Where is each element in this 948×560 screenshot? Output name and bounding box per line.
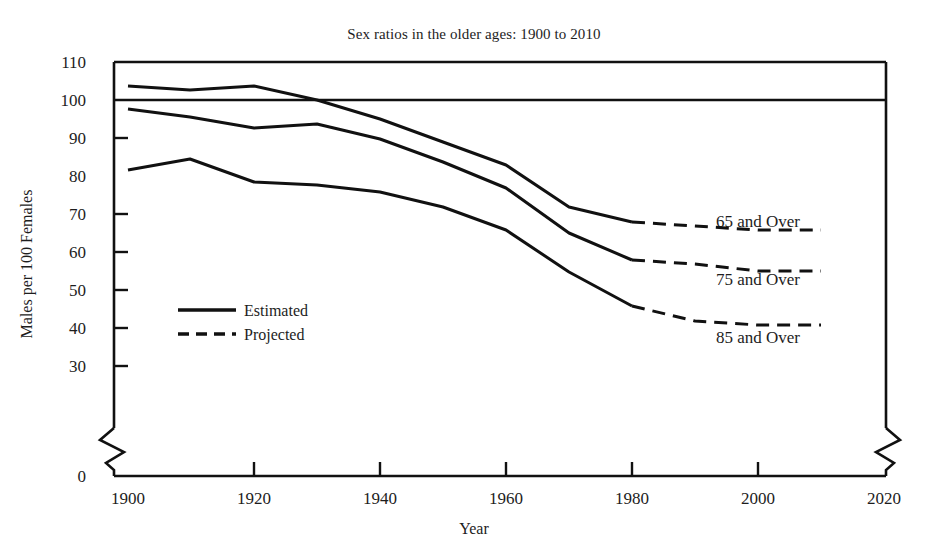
- series-75-and-over-projected: [632, 260, 821, 271]
- chart-canvas: [0, 0, 948, 560]
- series-75-and-over-estimated: [128, 109, 632, 260]
- series-65-and-over-estimated: [128, 86, 632, 222]
- chart-figure: Sex ratios in the older ages: 1900 to 20…: [0, 0, 948, 560]
- series-85-and-over-projected: [632, 306, 821, 325]
- y-axis-break-left: [100, 428, 124, 476]
- series-65-and-over-projected: [632, 222, 821, 230]
- series-85-and-over-estimated: [128, 159, 632, 306]
- y-axis-break-right: [876, 428, 900, 476]
